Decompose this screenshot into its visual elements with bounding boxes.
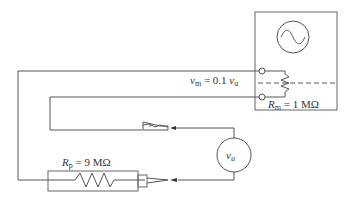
probe-body — [48, 171, 138, 191]
arrow-clip — [170, 126, 176, 130]
rp-resistor — [48, 173, 145, 187]
rm-resistor — [265, 71, 289, 97]
source-label: vu — [226, 149, 235, 163]
circuit-diagram: vu vm = 0.1 vu Rm = 1 MΩ Rp = 9 MΩ — [0, 0, 351, 208]
terminal-bottom — [259, 94, 265, 100]
rp-label: Rp = 9 MΩ — [61, 156, 111, 170]
probe-collar — [138, 175, 147, 187]
terminal-top — [259, 68, 265, 74]
sine-wave-icon — [277, 21, 309, 53]
rm-label: Rm = 1 MΩ — [267, 98, 319, 112]
wire-source-bottom — [178, 172, 234, 180]
wire-source-top — [172, 128, 234, 138]
arrow-probe — [170, 178, 177, 182]
alligator-clip-icon — [143, 122, 168, 130]
probe-tip-icon — [147, 178, 168, 183]
vm-equation-label: vm = 0.1 vu — [190, 74, 238, 88]
oscilloscope-box — [255, 12, 337, 110]
wire-outer-loop — [18, 71, 259, 180]
